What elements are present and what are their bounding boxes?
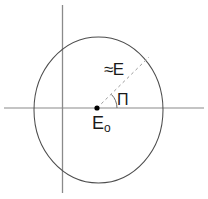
center-point-dot: [94, 105, 99, 110]
center-point-label-subscript: o: [104, 121, 111, 135]
center-point-label: Eo: [92, 114, 111, 134]
radius-label: ≈E: [104, 61, 124, 78]
diagram-canvas: ≈E Π Eo: [0, 0, 208, 199]
angle-label: Π: [117, 92, 129, 108]
center-point-label-base: E: [92, 113, 104, 133]
diagram-graphics: [0, 0, 208, 199]
